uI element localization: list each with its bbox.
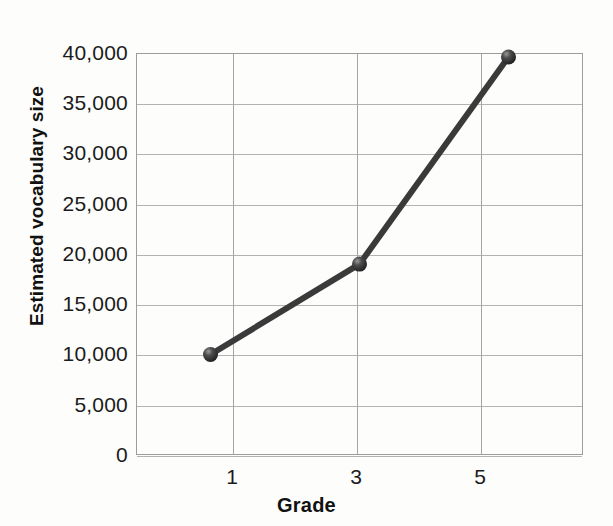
x-tick-label: 5 [450,465,510,489]
y-axis-title: Estimated vocabulary size [26,61,48,351]
gridline-horizontal [137,255,582,256]
gridline-vertical [481,54,482,454]
y-tick-label: 0 [8,443,128,467]
x-tick-label: 1 [202,465,262,489]
chart-figure: 40,000 35,000 30,000 25,000 20,000 15,00… [0,0,613,526]
gridline-vertical [233,54,234,454]
gridline-horizontal [137,104,582,105]
gridline-horizontal [137,456,582,457]
gridline-horizontal [137,154,582,155]
x-tick-label: 3 [326,465,386,489]
gridline-horizontal [137,355,582,356]
x-axis-title: Grade [0,494,613,517]
gridline-horizontal [137,205,582,206]
gridline-horizontal [137,406,582,407]
gridline-vertical [357,54,358,454]
gridline-horizontal [137,305,582,306]
y-axis-tick-labels: 40,000 35,000 30,000 25,000 20,000 15,00… [0,0,128,526]
y-tick-label: 5,000 [8,393,128,417]
plot-area [136,53,583,455]
